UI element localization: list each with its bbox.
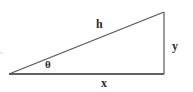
scan-artifact <box>0 52 3 54</box>
label-adjacent-side: x <box>101 77 107 89</box>
side-hypotenuse-line <box>9 12 164 74</box>
label-hypotenuse: h <box>96 18 103 30</box>
triangle-diagram: h y x θ <box>0 0 193 92</box>
label-opposite-side: y <box>172 40 178 52</box>
triangle-svg <box>0 0 193 92</box>
label-angle-theta: θ <box>45 59 51 70</box>
